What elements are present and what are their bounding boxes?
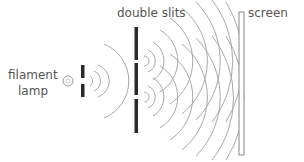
filament-lamp-icon: [63, 76, 73, 86]
double-slit-barrier: [135, 27, 139, 133]
double-slit-waves: [144, 0, 244, 160]
single-slit-barrier: [81, 65, 85, 97]
single-slit-waves: [90, 44, 129, 118]
filament-lamp-label-line2: lamp: [18, 84, 48, 98]
filament-lamp-label-line1: filament: [8, 68, 58, 82]
screen-panel: [239, 12, 244, 155]
screen-label: screen: [248, 6, 288, 20]
double-slits-label: double slits: [117, 6, 186, 20]
